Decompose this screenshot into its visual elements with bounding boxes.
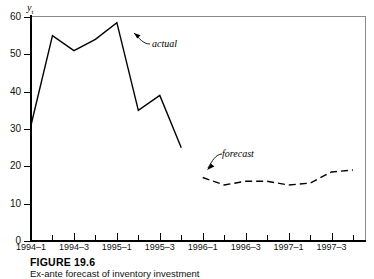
x-tick-1996-3 [246, 233, 247, 241]
x-tick-1995-3 [160, 233, 161, 241]
figure-caption-subtitle: Ex-ante forecast of inventory investment [30, 269, 370, 279]
y-tick-label-60: 60 [0, 12, 21, 22]
annotation-forecast: forecast [222, 148, 254, 159]
figure-caption-title: FIGURE 19.6 [30, 257, 370, 268]
x-tick-label-1997-1: 1997–1 [266, 243, 312, 252]
x-tick-label-1995-1: 1995–1 [94, 243, 140, 252]
y-tick-label-50: 50 [0, 49, 21, 59]
y-axis-title: yt [27, 2, 33, 16]
y-tick-50 [24, 54, 31, 55]
plot-frame-top [30, 16, 366, 17]
y-tick-label-30: 30 [0, 124, 21, 134]
y-axis-title-subscript: t [31, 8, 33, 16]
x-tick-label-1994-1: 1994–1 [8, 243, 54, 252]
plot-frame-right [365, 16, 366, 242]
y-tick-30 [24, 129, 31, 130]
chart-figure: yt 0102030405060 1994–11994–31995–11995–… [0, 0, 374, 258]
x-tick-1997-1 [289, 233, 290, 241]
x-tick-1994-1 [31, 233, 32, 241]
actual-arrow [134, 33, 150, 44]
data-series-layer [0, 0, 374, 258]
x-tick-1996-4 [267, 235, 268, 241]
x-tick-1995-2 [138, 235, 139, 241]
x-tick-label-1996-3: 1996–3 [223, 243, 269, 252]
y-tick-20 [24, 166, 31, 167]
y-tick-label-40: 40 [0, 87, 21, 97]
series-line-forecast [203, 170, 353, 185]
x-tick-label-1996-1: 1996–1 [180, 243, 226, 252]
x-tick-1994-3 [74, 233, 75, 241]
x-tick-1994-2 [52, 235, 53, 241]
forecast-arrow [207, 154, 222, 170]
x-tick-1995-4 [181, 235, 182, 241]
x-tick-label-1995-3: 1995–3 [137, 243, 183, 252]
x-tick-1997-2 [310, 235, 311, 241]
x-tick-1997-3 [332, 233, 333, 241]
x-tick-label-1997-3: 1997–3 [309, 243, 355, 252]
x-tick-label-1994-3: 1994–3 [51, 243, 97, 252]
x-tick-1997-4 [353, 235, 354, 241]
x-tick-1996-1 [203, 233, 204, 241]
annotation-actual: actual [152, 38, 177, 49]
x-tick-1994-4 [95, 235, 96, 241]
x-tick-1996-2 [224, 235, 225, 241]
y-tick-10 [24, 204, 31, 205]
y-tick-label-20: 20 [0, 161, 21, 171]
annotation-arrow-layer [0, 0, 374, 258]
y-tick-label-10: 10 [0, 199, 21, 209]
y-tick-40 [24, 92, 31, 93]
x-tick-1995-1 [117, 233, 118, 241]
y-tick-60 [24, 17, 31, 18]
figure-caption: FIGURE 19.6 Ex-ante forecast of inventor… [30, 257, 370, 279]
